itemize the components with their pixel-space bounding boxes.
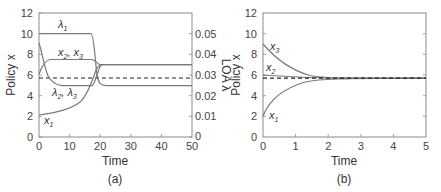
curve-x2x3 <box>39 60 192 75</box>
x-axis-label-b: Time <box>331 154 358 168</box>
panel-b: 0 2 4 6 8 10 12 0 1 2 3 4 5 x3 x2 x1 <box>229 7 429 186</box>
caption-b: (b) <box>337 172 352 186</box>
y-axis-label-b: Policy x <box>229 54 243 95</box>
label-x1: x1 <box>43 114 54 128</box>
x-tick-label: 20 <box>94 140 106 152</box>
label-x3: x3 <box>269 40 280 54</box>
y-tick-label: 4 <box>27 90 33 102</box>
y2-tick-label: 0.01 <box>195 110 216 122</box>
x-tick-label: 10 <box>63 140 75 152</box>
plot-frame-a <box>39 13 192 137</box>
y-tick-label: 12 <box>245 7 257 19</box>
y-tick-label: 10 <box>245 28 257 40</box>
x-tick-label: 2 <box>325 140 331 152</box>
panel-a: 0 2 4 6 8 10 12 0 0.01 0.02 0.03 0.04 0.… <box>4 7 233 186</box>
plot-frame-b <box>263 13 426 137</box>
x-tick-label: 5 <box>423 140 429 152</box>
y2-tick-label: 0.03 <box>195 69 216 81</box>
y2-ticks-a: 0 0.01 0.02 0.03 0.04 0.05 <box>189 28 216 143</box>
label-x1: x1 <box>268 109 279 123</box>
y-tick-label: 2 <box>27 110 33 122</box>
y2-tick-label: 0.02 <box>195 90 216 102</box>
y-axis-label-a: Policy x <box>4 54 18 95</box>
y-tick-label: 2 <box>251 110 257 122</box>
caption-a: (a) <box>108 172 123 186</box>
curve-x3 <box>263 44 426 78</box>
y-tick-label: 8 <box>251 48 257 60</box>
y-tick-label: 12 <box>21 7 33 19</box>
x-tick-label: 30 <box>125 140 137 152</box>
x-tick-label: 1 <box>293 140 299 152</box>
x-axis-label-a: Time <box>102 154 129 168</box>
label-x2: x2 <box>265 61 276 75</box>
figure: 0 2 4 6 8 10 12 0 0.01 0.02 0.03 0.04 0.… <box>0 0 441 192</box>
label-lambda23: λ2, λ3 <box>51 86 77 100</box>
x-tick-label: 40 <box>155 140 167 152</box>
y-tick-label: 10 <box>21 28 33 40</box>
y2-tick-label: 0.04 <box>195 48 216 60</box>
y-tick-label: 0 <box>251 131 257 143</box>
x-tick-label: 0 <box>36 140 42 152</box>
y-tick-label: 4 <box>251 90 257 102</box>
label-x2x3: x2, x3 <box>57 46 83 60</box>
x-tick-label: 4 <box>390 140 396 152</box>
x-tick-label: 50 <box>186 140 198 152</box>
label-lambda1: λ1 <box>57 18 67 32</box>
y-tick-label: 6 <box>251 69 257 81</box>
curve-x1 <box>263 78 426 116</box>
y-tick-label: 8 <box>27 48 33 60</box>
y-tick-label: 6 <box>27 69 33 81</box>
x-tick-label: 3 <box>358 140 364 152</box>
y-tick-label: 0 <box>27 131 33 143</box>
x-tick-label: 0 <box>260 140 266 152</box>
y2-tick-label: 0.05 <box>195 28 216 40</box>
